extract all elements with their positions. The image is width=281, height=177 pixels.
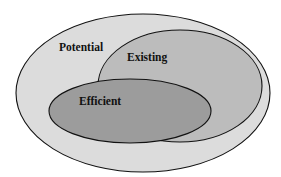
- venn-diagram: Potential Existing Efficient: [0, 0, 281, 177]
- potential-label: Potential: [59, 41, 103, 53]
- efficient-ellipse: [49, 79, 211, 143]
- existing-label: Existing: [127, 51, 168, 64]
- efficient-label: Efficient: [79, 95, 121, 107]
